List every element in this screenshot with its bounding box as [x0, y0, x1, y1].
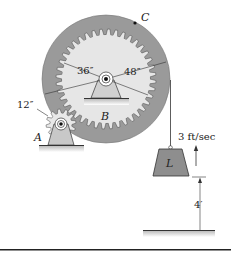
label-a: A: [33, 131, 42, 144]
dim-48: 48″: [124, 66, 141, 77]
label-l: L: [165, 157, 173, 170]
gear-train-diagram: C 36″ 48″ B 12″ A L 3 ft/sec 4′: [0, 0, 231, 257]
ground-line: [143, 230, 215, 231]
velocity-arrow-icon: [194, 145, 198, 166]
hub-b: [99, 72, 113, 86]
dim-12: 12″: [17, 99, 34, 110]
velocity-label: 3 ft/sec: [178, 131, 216, 142]
ground-hatch: [143, 231, 215, 237]
dim-4ft: 4′: [194, 199, 203, 210]
point-c-marker: [133, 21, 136, 24]
bottom-rule: [0, 249, 231, 251]
label-c: C: [141, 11, 150, 24]
dim-36: 36″: [77, 65, 94, 76]
label-b: B: [100, 110, 109, 123]
